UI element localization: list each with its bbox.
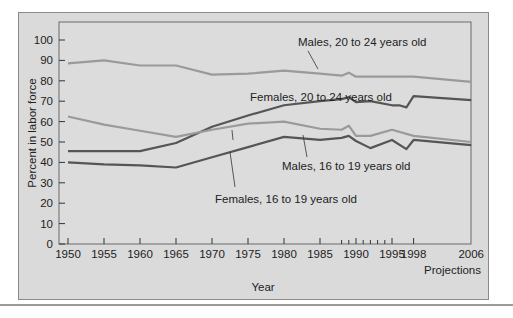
label-females-16-19: Females, 16 to 19 years old — [215, 193, 357, 205]
label-males-16-19: Males, 16 to 19 years old — [282, 160, 411, 172]
x-tick-label: 1970 — [199, 248, 225, 260]
x-tick-label: 1980 — [271, 248, 297, 260]
y-tick-label: 20 — [40, 197, 53, 209]
plot-area — [59, 22, 471, 244]
x-tick-label: 1998 — [401, 248, 427, 260]
label-females-20-24: Females, 20 to 24 years old — [250, 91, 392, 103]
x-tick-label: 1950 — [55, 248, 81, 260]
x-tick-label: 1960 — [127, 248, 153, 260]
y-tick-label: 30 — [40, 177, 53, 189]
y-axis-label: Percent in labor force — [26, 78, 38, 187]
y-tick-label: 90 — [40, 54, 53, 66]
x-tick-label: 1990 — [343, 248, 369, 260]
x-tick-label: 2006 — [458, 248, 484, 260]
x-tick-label: 1965 — [163, 248, 189, 260]
y-tick-label: 40 — [40, 156, 53, 168]
y-tick-label: 80 — [40, 75, 53, 87]
y-tick-label: 50 — [40, 136, 53, 148]
x-axis-label: Year — [251, 281, 274, 293]
projections-label: Projections — [424, 264, 481, 276]
x-tick-label: 1955 — [91, 248, 117, 260]
y-tick-label: 0 — [47, 238, 53, 250]
line-chart: 0102030405060708090100 19501955196019651… — [0, 0, 513, 318]
x-tick-label: 1975 — [235, 248, 261, 260]
label-males-20-24: Males, 20 to 24 years old — [298, 36, 427, 48]
y-tick-label: 60 — [40, 116, 53, 128]
y-tick-label: 70 — [40, 95, 53, 107]
x-tick-label: 1985 — [307, 248, 333, 260]
y-tick-label: 10 — [40, 218, 53, 230]
y-tick-label: 100 — [34, 34, 53, 46]
